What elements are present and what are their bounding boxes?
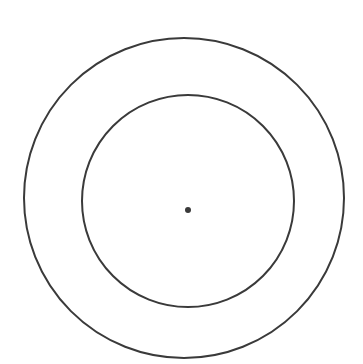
inner-circle: [82, 95, 294, 307]
outer-circle: [24, 38, 344, 358]
concentric-circles-diagram: [0, 0, 363, 364]
center-dot: [185, 207, 191, 213]
